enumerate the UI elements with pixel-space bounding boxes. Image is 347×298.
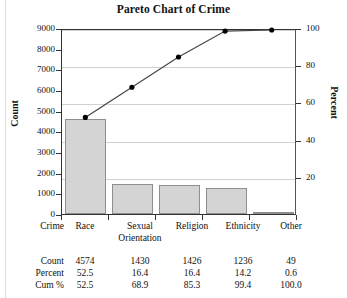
x-axis-tick <box>155 215 156 220</box>
y-axis-left-tick-label: 8000 <box>15 44 55 54</box>
x-axis-tick <box>108 215 109 220</box>
y-axis-right-tick-label: 100 <box>306 23 336 33</box>
y-axis-left-tick-label: 5000 <box>15 106 55 116</box>
table-crime-cell: Other <box>256 221 326 231</box>
cumulative-marker <box>83 115 88 120</box>
x-axis-tick <box>202 215 203 220</box>
cumulative-marker <box>269 27 274 32</box>
table-count-cell: 49 <box>256 256 326 266</box>
y-axis-left-tick-label: 2000 <box>15 168 55 178</box>
table-cum-cell: 100.0 <box>256 280 326 290</box>
y-axis-right-tick-label: 20 <box>306 172 336 182</box>
y-axis-left-tick-label: 1000 <box>15 188 55 198</box>
page-title: Pareto Chart of Crime <box>0 3 347 15</box>
cumulative-line <box>85 30 271 117</box>
data-table: CrimeRaceSexualReligionEthnicityOther Or… <box>0 221 347 292</box>
cumulative-line-series <box>62 30 295 214</box>
y-axis-right-tick-label: 40 <box>306 135 336 145</box>
y-axis-right-tick-label: 80 <box>306 60 336 70</box>
x-axis-tick <box>61 215 62 220</box>
table-row-count: Count457414301426123649 <box>0 256 347 268</box>
table-row-percent: Percent52.516.416.414.20.6 <box>0 268 347 280</box>
plot-area <box>61 29 296 215</box>
table-row-crime-wrap: Orientation <box>0 233 347 256</box>
table-row-cum: Cum %52.568.985.399.4100.0 <box>0 280 347 292</box>
y-axis-left-tick-label: 3000 <box>15 147 55 157</box>
y-axis-left-tick-label: 4000 <box>15 126 55 136</box>
table-crime-wrap-cell: Orientation <box>105 233 175 243</box>
y-axis-left-tick-label: 9000 <box>15 23 55 33</box>
x-axis-tick <box>249 215 250 220</box>
y-axis-right-tick-label: 60 <box>306 97 336 107</box>
y-axis-left-tick-label: 0 <box>15 209 55 219</box>
y-axis-left-tick-label: 6000 <box>15 85 55 95</box>
cumulative-marker <box>129 85 134 90</box>
cumulative-marker <box>176 54 181 59</box>
x-axis-tick <box>296 215 297 220</box>
cumulative-marker <box>223 29 228 34</box>
y-axis-left-tick-label: 7000 <box>15 64 55 74</box>
table-row-crime: CrimeRaceSexualReligionEthnicityOther <box>0 221 347 233</box>
table-percent-cell: 0.6 <box>256 268 326 278</box>
